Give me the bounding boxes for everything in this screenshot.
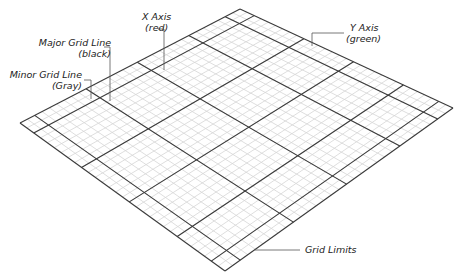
x-axis-label-title: X Axis (142, 11, 171, 22)
grid-diagram: X Axis (red) Major Grid Line (black) Min… (0, 0, 468, 279)
major-grid-line-label-title: Major Grid Line (36, 37, 111, 48)
minor-grid-line-label-title: Minor Grid Line (0, 69, 82, 80)
minor-grid-line (150, 72, 375, 217)
minor-grid-line (145, 58, 355, 178)
minor-grid-line (196, 32, 407, 141)
major-grid-line (225, 17, 437, 119)
x-axis-label: X Axis (red) (142, 11, 171, 33)
minor-grid-line-label: Minor Grid Line (Gray) (0, 69, 82, 91)
grid-limits-label: Grid Limits (305, 244, 356, 255)
major-grid-line (177, 85, 403, 237)
minor-grid-line-label-color: (Gray) (0, 80, 82, 91)
y-axis-leader-line (312, 33, 344, 46)
minor-grid-line (218, 20, 430, 124)
y-axis-label-color: (green) (346, 33, 381, 44)
y-axis-label-title: Y Axis (346, 22, 381, 33)
y-axis-label: Y Axis (green) (346, 22, 381, 44)
x-axis-label-color: (red) (142, 22, 171, 33)
minor-grid-line (211, 24, 423, 130)
minor-grid-line (233, 13, 446, 114)
major-grid-line-label: Major Grid Line (black) (36, 37, 111, 59)
minor-grid-line (159, 51, 369, 168)
major-grid-line-label-color: (black) (36, 48, 111, 59)
minor-grid-line (184, 88, 410, 241)
minor-grid-line (167, 47, 377, 162)
minor-grid-line (152, 55, 362, 174)
minor-grid-line (157, 75, 382, 222)
minor-grid-line (191, 92, 418, 247)
